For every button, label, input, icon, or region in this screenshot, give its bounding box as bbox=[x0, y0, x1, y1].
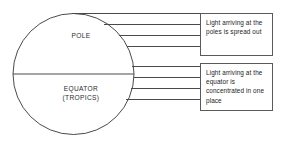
callout-text-poles: Light arriving at the poles is spread ou… bbox=[206, 18, 270, 36]
equator-label-line-2: (TROPICS) bbox=[50, 93, 112, 102]
equator-label-line-1: EQUATOR bbox=[50, 84, 112, 93]
callout-text-equator: Light arriving at the equator is concent… bbox=[206, 68, 270, 105]
pole-label: POLE bbox=[58, 31, 104, 40]
diagram-canvas: POLE EQUATOR (TROPICS) Light arriving at… bbox=[0, 0, 283, 149]
equator-label: EQUATOR (TROPICS) bbox=[50, 84, 112, 102]
